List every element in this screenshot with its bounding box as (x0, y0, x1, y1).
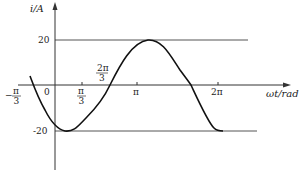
chart-canvas: i/A 20 -20 0 − π 3 π 3 2π 3 π 2π ωt/rad (0, 0, 306, 177)
x-tick-label-2pi3-den: 3 (99, 73, 105, 83)
x-tick-label-pi3-den: 3 (79, 96, 85, 106)
x-axis-arrow-icon (283, 83, 291, 88)
x-tick-label-pi: π (133, 87, 139, 97)
x-tick-label-neg-pi3-sign: − (5, 90, 13, 100)
y-axis-arrow-icon (53, 2, 58, 10)
x-tick-label-2pi3-num: 2π (97, 63, 109, 73)
x-axis-label: ωt/rad (266, 88, 299, 99)
y-tick-label-neg-20: -20 (33, 126, 48, 136)
x-tick-label-neg-pi3-den: 3 (14, 96, 20, 106)
x-tick-label-2pi: 2π (211, 87, 223, 97)
x-tick-label-neg-pi3-num: π (13, 86, 19, 96)
origin-label: 0 (44, 87, 50, 97)
x-tick-label-pi3-num: π (78, 86, 84, 96)
y-axis-label: i/A (30, 3, 44, 14)
y-tick-label-20: 20 (38, 35, 50, 45)
current-waveform (30, 40, 223, 131)
